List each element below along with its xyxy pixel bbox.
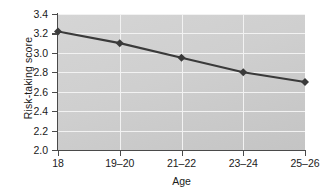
chart-figure: Risk-taking score Age 2.02.22.42.62.83.0… <box>0 0 331 195</box>
x-tick-label: 18 <box>52 158 64 169</box>
x-tick-mark <box>305 151 306 156</box>
y-tick-mark <box>52 92 57 93</box>
y-tick-label: 3.4 <box>33 9 48 19</box>
y-tick-label: 2.6 <box>33 87 48 97</box>
y-tick-label: 2.4 <box>33 106 48 116</box>
plot-area <box>58 14 305 150</box>
x-tick-label: 25–26 <box>290 158 319 169</box>
y-axis-line <box>57 13 58 151</box>
y-axis-title: Risk-taking score <box>22 3 34 153</box>
x-tick-label: 23–24 <box>229 158 258 169</box>
y-tick-mark <box>52 111 57 112</box>
y-tick-label: 2.2 <box>33 126 48 136</box>
x-tick-mark <box>58 151 59 156</box>
y-tick-mark <box>52 14 57 15</box>
gridline-vertical <box>182 14 183 150</box>
y-tick-label: 2.8 <box>33 67 48 77</box>
x-tick-label: 19–20 <box>105 158 134 169</box>
x-axis-title: Age <box>58 175 305 187</box>
y-tick-mark <box>52 150 57 151</box>
y-tick-mark <box>52 33 57 34</box>
y-tick-label: 2.0 <box>33 145 48 155</box>
y-tick-mark <box>52 72 57 73</box>
y-tick-mark <box>52 53 57 54</box>
x-tick-mark <box>120 151 121 156</box>
x-tick-label: 21–22 <box>167 158 196 169</box>
y-tick-label: 3.2 <box>33 28 48 38</box>
y-tick-mark <box>52 131 57 132</box>
x-tick-mark <box>243 151 244 156</box>
gridline-vertical <box>243 14 244 150</box>
y-tick-label: 3.0 <box>33 48 48 58</box>
x-tick-mark <box>182 151 183 156</box>
gridline-vertical <box>120 14 121 150</box>
